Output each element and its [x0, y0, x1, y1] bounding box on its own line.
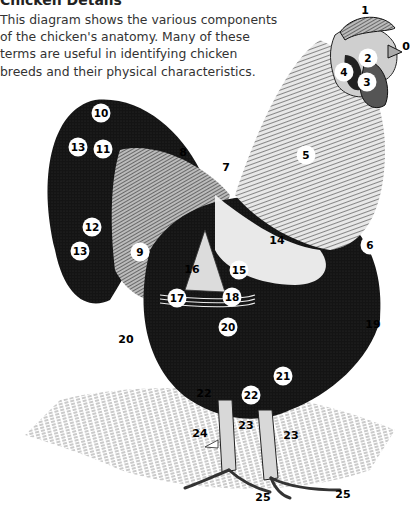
label-22b: 22 [242, 386, 261, 405]
label-21: 21 [274, 367, 293, 386]
label-22a: 22 [196, 388, 211, 399]
label-23b: 23 [283, 430, 298, 441]
label-11: 11 [94, 140, 113, 159]
label-14: 14 [269, 235, 284, 246]
label-0: 0 [402, 41, 410, 52]
label-23a: 23 [238, 420, 253, 431]
label-25a: 25 [255, 492, 270, 503]
label-24: 24 [192, 428, 207, 439]
label-8: 8 [179, 147, 187, 158]
label-6: 6 [361, 236, 380, 255]
label-13b: 13 [71, 242, 90, 261]
label-17: 17 [168, 289, 187, 308]
label-9: 9 [131, 243, 150, 262]
label-7: 7 [222, 162, 230, 173]
label-18: 18 [223, 288, 242, 307]
label-12: 12 [83, 218, 102, 237]
label-13a: 13 [69, 138, 88, 157]
label-5: 5 [297, 146, 316, 165]
label-10: 10 [92, 104, 111, 123]
label-20b: 20 [219, 318, 238, 337]
label-4: 4 [335, 63, 354, 82]
label-25b: 25 [335, 489, 350, 500]
label-16: 16 [184, 264, 199, 275]
label-3: 3 [358, 73, 377, 92]
label-20a: 20 [118, 334, 133, 345]
label-1: 1 [361, 5, 369, 16]
label-15: 15 [230, 261, 249, 280]
label-19: 19 [365, 319, 380, 330]
label-2: 2 [359, 49, 378, 68]
